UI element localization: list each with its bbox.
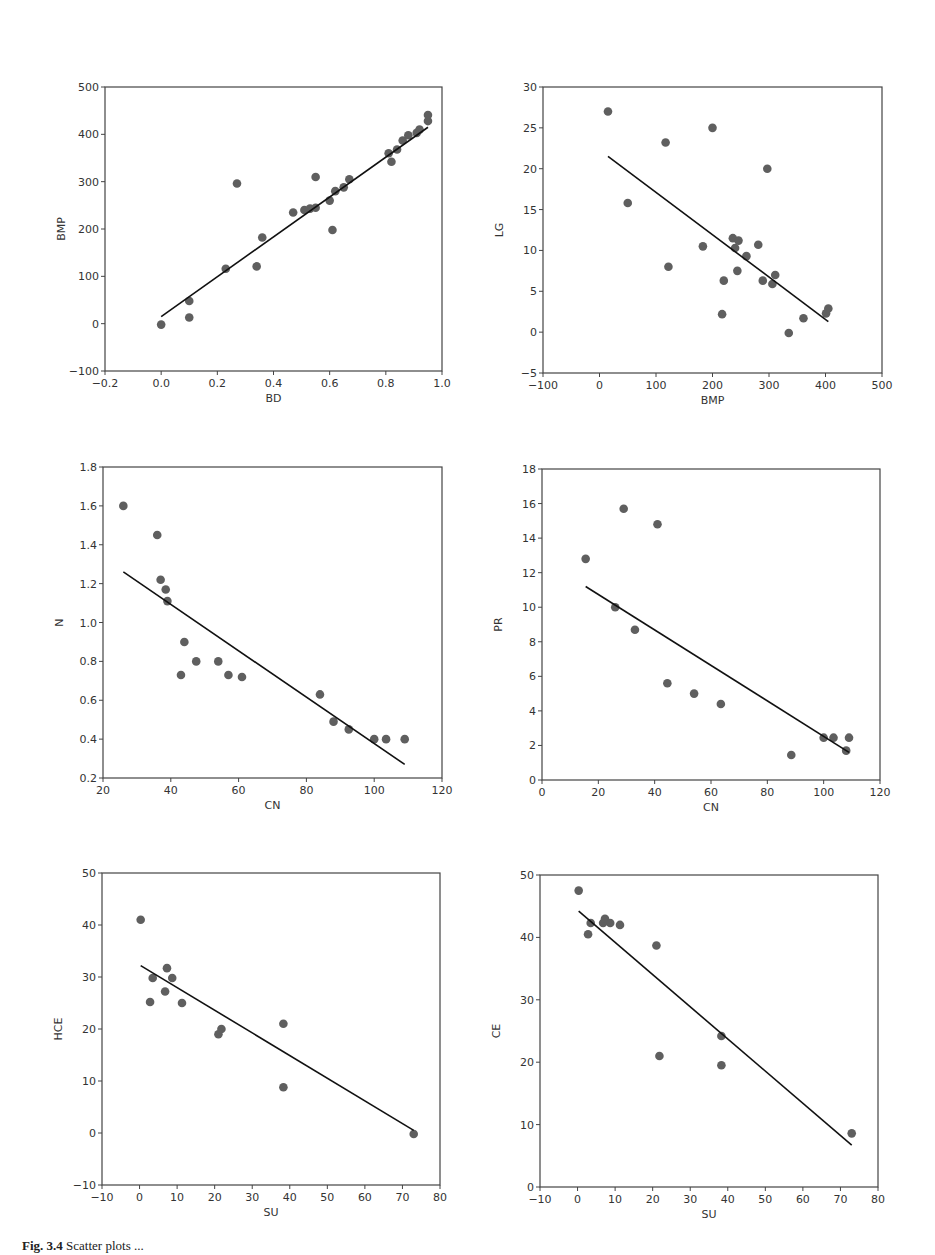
x-tick-label: 0.2 [209, 377, 227, 390]
x-axis-label: BD [265, 392, 281, 405]
regression-line [608, 156, 828, 321]
y-axis-label: BMP [55, 217, 68, 241]
plot-frame [542, 469, 880, 780]
scatter-chart-hce-vs-su: −1001020304050607080−1001020304050SUHCE [52, 867, 447, 1219]
y-tick-label: 18 [522, 463, 536, 476]
x-tick-label: 10 [170, 1191, 184, 1204]
x-tick-label: −10 [90, 1191, 113, 1204]
y-tick-label: 6 [529, 670, 536, 683]
x-tick-label: 40 [283, 1191, 297, 1204]
data-point [717, 700, 726, 709]
y-tick-label: 2 [529, 739, 536, 752]
regression-line [123, 572, 404, 764]
figure-caption-text: Scatter plots ... [66, 1238, 144, 1253]
y-tick-label: 14 [522, 532, 536, 545]
y-tick-label: 4 [529, 705, 536, 718]
data-point [146, 998, 155, 1007]
y-tick-label: 0 [92, 318, 99, 331]
data-point [279, 1083, 288, 1092]
x-axis-label: CN [265, 799, 281, 812]
x-tick-label: 60 [704, 786, 718, 799]
y-tick-label: 1.4 [80, 539, 98, 552]
data-point [192, 657, 201, 666]
x-tick-label: 20 [96, 784, 110, 797]
data-point [616, 921, 625, 930]
data-point [847, 1129, 856, 1138]
y-tick-label: 40 [520, 931, 534, 944]
data-point [845, 733, 854, 742]
x-tick-label: 80 [299, 784, 313, 797]
y-tick-label: 0 [527, 1181, 534, 1194]
data-point [606, 919, 615, 928]
data-point [177, 671, 186, 680]
y-axis-label: HCE [52, 1018, 65, 1041]
x-tick-label: 100 [813, 786, 834, 799]
x-tick-label: 100 [646, 379, 667, 392]
regression-line [579, 911, 852, 1145]
x-tick-label: 0 [574, 1193, 581, 1206]
y-tick-label: −5 [521, 367, 537, 380]
x-tick-label: 500 [872, 379, 893, 392]
data-point [581, 555, 590, 564]
y-tick-label: −10 [73, 1179, 96, 1192]
y-tick-label: 1.0 [80, 617, 98, 630]
x-tick-label: 0 [596, 379, 603, 392]
x-tick-label: 80 [760, 786, 774, 799]
y-tick-label: 1.2 [80, 578, 98, 591]
data-point [387, 157, 396, 166]
y-axis-label: CE [490, 1024, 503, 1039]
plot-frame [102, 873, 440, 1185]
data-point [604, 107, 613, 116]
x-tick-label: 0.6 [321, 377, 339, 390]
data-point [619, 504, 628, 513]
data-point [279, 1020, 288, 1029]
data-point [771, 271, 780, 280]
y-tick-label: 20 [82, 1023, 96, 1036]
x-tick-label: 40 [648, 786, 662, 799]
y-tick-label: 0.4 [80, 733, 98, 746]
data-point [161, 585, 170, 594]
regression-line [141, 966, 414, 1131]
y-tick-label: 10 [82, 1075, 96, 1088]
data-point [233, 179, 242, 188]
y-tick-label: 25 [523, 122, 537, 135]
data-point [653, 520, 662, 529]
data-point [663, 679, 672, 688]
data-point [400, 735, 409, 744]
data-point [156, 575, 165, 584]
x-tick-label: 30 [245, 1191, 259, 1204]
data-point [311, 173, 320, 182]
data-point [316, 690, 325, 699]
x-tick-label: 60 [232, 784, 246, 797]
data-point [784, 329, 793, 338]
regression-line [586, 586, 849, 752]
x-tick-label: 80 [433, 1191, 447, 1204]
x-tick-label: −0.2 [92, 377, 119, 390]
x-tick-label: 20 [591, 786, 605, 799]
x-tick-label: 10 [608, 1193, 622, 1206]
data-point [787, 751, 796, 760]
data-point [664, 262, 673, 271]
data-point [163, 964, 172, 973]
x-tick-label: 40 [164, 784, 178, 797]
y-tick-label: 10 [520, 1119, 534, 1132]
x-tick-label: 0.8 [377, 377, 395, 390]
data-point [258, 233, 267, 242]
figure-caption: Fig. 3.4 Scatter plots ... [22, 1238, 144, 1254]
x-tick-label: 80 [871, 1193, 885, 1206]
regression-line [161, 127, 428, 316]
y-tick-label: 0 [89, 1127, 96, 1140]
x-tick-label: 0 [136, 1191, 143, 1204]
y-tick-label: 0.6 [80, 694, 98, 707]
y-tick-label: 16 [522, 498, 536, 511]
y-tick-label: 500 [78, 81, 99, 94]
y-tick-label: 30 [82, 971, 96, 984]
y-tick-label: 0.8 [80, 655, 98, 668]
x-tick-label: 50 [758, 1193, 772, 1206]
scatter-chart-lg-vs-bmp: −1000100200300400500−5051015202530BMPLG [493, 81, 893, 407]
data-point [631, 625, 640, 634]
y-tick-label: 200 [78, 223, 99, 236]
data-point [699, 242, 708, 251]
data-point [153, 531, 162, 540]
data-point [424, 111, 433, 120]
